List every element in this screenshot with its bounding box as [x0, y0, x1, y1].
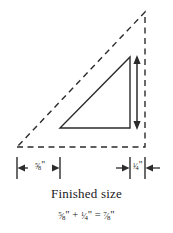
equation-right-operand: 1⁄4: [81, 210, 88, 222]
dimension-label-finished-width: 5⁄8": [26, 160, 54, 171]
equation-line: 5⁄8" + 1⁄4" = 7⁄8": [0, 209, 173, 222]
height-dimension-arrow: [133, 55, 140, 130]
finished-size-triangle: [60, 57, 130, 128]
inch-mark: ": [65, 209, 69, 220]
inch-mark: ": [139, 160, 143, 170]
equation-equals: =: [95, 209, 101, 220]
inch-mark: ": [41, 160, 45, 170]
figure-caption: Finished size: [0, 186, 173, 202]
equation-operator: +: [72, 209, 78, 220]
cut-size-triangle: [17, 12, 145, 147]
inch-mark: ": [88, 209, 92, 220]
dimension-label-seam-allowance: 1⁄4": [129, 160, 146, 171]
quilt-seam-allowance-diagram: 5⁄8" 1⁄4" Finished size 5⁄8" + 1⁄4" = 7⁄…: [0, 0, 173, 233]
inch-mark: ": [110, 209, 114, 220]
